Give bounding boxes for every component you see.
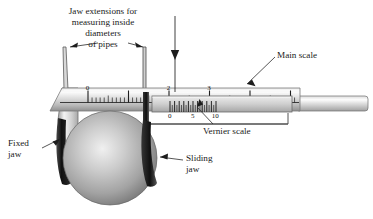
jaw-extension-prongs [63, 47, 146, 92]
main-scale-number: 0 [86, 84, 90, 92]
vernier-scale-number: 0 [168, 112, 172, 120]
vernier-scale-number: 5 [191, 112, 195, 120]
main-scale-label: Main scale [277, 50, 317, 61]
fixed-jaw-label: Fixed jaw [8, 138, 29, 160]
depth-rod [296, 96, 368, 111]
sliding-jaw-label: Sliding jaw [186, 153, 213, 175]
main-scale-number: 2 [167, 84, 171, 92]
vernier-caliper-figure: Jaw extensions for measuring inside diam… [0, 0, 373, 219]
vernier-scale-number: 10 [212, 112, 219, 120]
jaw-extensions-caption: Jaw extensions for measuring inside diam… [38, 6, 168, 49]
vernier-scale-label: Vernier scale [203, 126, 251, 137]
main-scale-number: 3 [207, 84, 211, 92]
